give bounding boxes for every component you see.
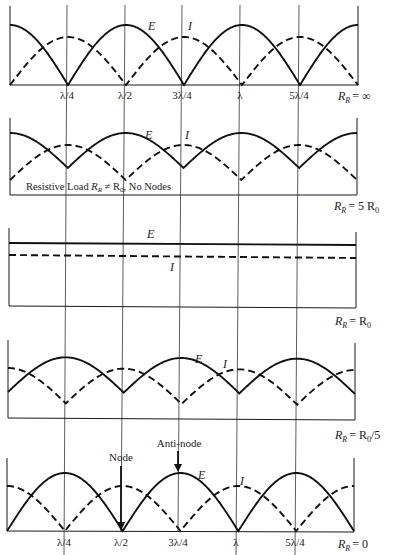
tick-labels: λ/4 λ/2 3λ/4 λ 5λ/4	[57, 536, 305, 548]
tick-labels: λ/4 λ/2 3λ/4 λ 5λ/4	[60, 89, 309, 101]
tick-label: λ	[233, 536, 239, 548]
voltage-curve-e	[10, 25, 358, 85]
i-label: I	[239, 474, 245, 488]
tick-label: 3λ/4	[172, 89, 192, 101]
voltage-line-e	[9, 243, 356, 245]
panel-frame	[8, 340, 355, 420]
current-curve-i	[7, 486, 354, 531]
load-label: RR= 5 R0	[333, 199, 379, 215]
panel-matched: E I RR= R0	[9, 227, 371, 330]
current-curve-i	[10, 37, 358, 85]
voltage-curve-e	[10, 133, 357, 168]
i-label: I	[222, 357, 228, 371]
no-nodes-note: Resistive Load RR ≠ R0, No Nodes	[26, 181, 171, 194]
tick-label: λ/2	[114, 536, 128, 548]
e-label: E	[147, 19, 156, 33]
voltage-curve-e	[7, 473, 354, 531]
e-label: E	[194, 352, 203, 366]
e-label: E	[144, 128, 153, 142]
tick-label: 3λ/4	[168, 536, 188, 548]
current-curve-i	[8, 368, 355, 405]
tick-label: λ/4	[57, 536, 71, 548]
tick-label: λ/2	[118, 89, 132, 101]
e-label: E	[197, 468, 206, 482]
load-label: RR= ∞	[337, 89, 371, 105]
panel-short-circuit: E I Node Anti-node λ/4 λ/2 3λ/4 λ 5λ/4 R…	[7, 437, 368, 553]
load-label: RR= R0/5	[334, 428, 380, 444]
i-label: I	[169, 260, 175, 274]
i-label: I	[187, 19, 193, 33]
standing-wave-figure: E I λ/4 λ/2 3λ/4 λ 5λ/4 RR= ∞ E I Resist…	[0, 0, 394, 555]
tick-label: 5λ/4	[285, 536, 305, 548]
panel-low-resistive: E I RR= R0/5	[8, 340, 380, 444]
e-label: E	[146, 227, 155, 241]
tick-label: λ/4	[60, 89, 74, 101]
gridline-lambda	[236, 5, 240, 555]
tick-label: λ	[237, 89, 243, 101]
load-label: RR= 0	[337, 537, 368, 553]
panel-frame	[7, 458, 354, 532]
antinode-label: Anti-node	[157, 437, 202, 449]
voltage-curve-e	[8, 357, 355, 394]
panel-frame	[9, 228, 356, 308]
panel-open-circuit: E I λ/4 λ/2 3λ/4 λ 5λ/4 RR= ∞	[10, 6, 371, 105]
tick-label: 5λ/4	[289, 89, 309, 101]
panel-frame	[10, 6, 358, 85]
antinode-arrowhead-icon	[174, 464, 182, 472]
load-label: RR= R0	[334, 314, 371, 330]
node-label: Node	[109, 451, 133, 463]
panel-high-resistive: E I Resistive Load RR ≠ R0, No Nodes RR=…	[10, 118, 379, 215]
current-line-i	[9, 255, 356, 258]
i-label: I	[184, 128, 190, 142]
